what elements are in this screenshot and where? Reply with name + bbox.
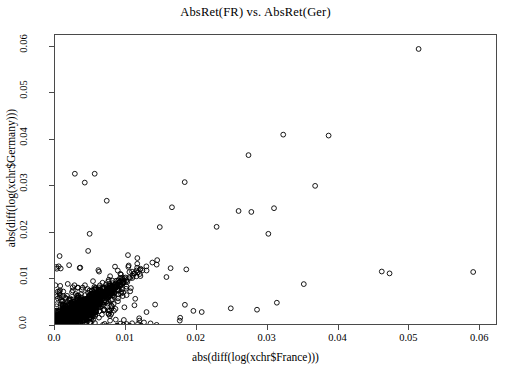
- y-tick-label: 0.01: [0, 270, 46, 281]
- x-tick-mark: [196, 325, 197, 330]
- x-tick-mark: [267, 325, 268, 330]
- y-tick-mark: [49, 139, 54, 140]
- data-points-layer: [55, 35, 497, 325]
- y-tick-mark: [49, 278, 54, 279]
- x-tick-label: 0.05: [385, 332, 431, 343]
- y-axis-label: abs(diff(log(xchr$Germany))): [5, 98, 17, 258]
- x-tick-label: 0.04: [315, 332, 361, 343]
- x-tick-mark: [479, 325, 480, 330]
- plot-area-frame: [54, 34, 497, 325]
- x-tick-mark: [125, 325, 126, 330]
- y-tick-label: 0.0: [0, 317, 46, 328]
- x-tick-label: 0.02: [173, 332, 219, 343]
- x-tick-mark: [408, 325, 409, 330]
- y-tick-mark: [49, 232, 54, 233]
- x-tick-label: 0.0: [31, 332, 77, 343]
- y-tick-mark: [49, 46, 54, 47]
- x-tick-label: 0.03: [244, 332, 290, 343]
- x-tick-label: 0.01: [102, 332, 148, 343]
- y-tick-mark: [49, 185, 54, 186]
- x-tick-mark: [338, 325, 339, 330]
- x-tick-label: 0.06: [456, 332, 502, 343]
- x-axis-label: abs(diff(log(xchr$France))): [0, 351, 511, 363]
- x-tick-mark: [54, 325, 55, 330]
- scatter-plot-figure: AbsRet(FR) vs. AbsRet(Ger) 0.00.010.020.…: [0, 0, 511, 384]
- y-tick-label: 0.05: [0, 84, 46, 95]
- y-tick-mark: [49, 92, 54, 93]
- y-tick-mark: [49, 325, 54, 326]
- chart-title: AbsRet(FR) vs. AbsRet(Ger): [0, 5, 511, 20]
- y-tick-label: 0.06: [0, 38, 46, 49]
